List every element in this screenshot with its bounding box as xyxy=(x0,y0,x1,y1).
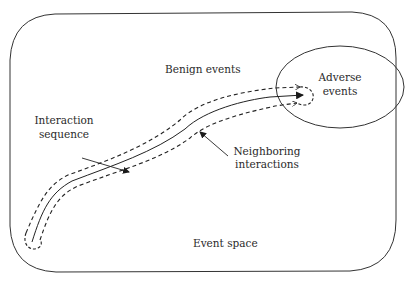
neighboring-interactions-pointer-arrow xyxy=(200,132,228,156)
benign-events-label: Benign events xyxy=(165,63,241,75)
neighboring-end-cap-start xyxy=(25,233,41,249)
event-space-label: Event space xyxy=(193,237,258,249)
adverse-events-label-line1: Adverse xyxy=(317,71,361,83)
neighboring-interactions-label-line1: Neighboring xyxy=(233,145,300,157)
neighboring-interactions-label-line2: interactions xyxy=(235,158,299,170)
interaction-sequence-label-line1: Interaction xyxy=(34,114,93,126)
neighboring-end-cap-end xyxy=(297,87,313,105)
interaction-sequence-label-line2: sequence xyxy=(39,128,89,140)
adverse-events-label-line2: events xyxy=(323,85,358,97)
event-space-diagram: Benign events Adverse events Interaction… xyxy=(0,0,408,291)
interaction-sequence-pointer-arrow xyxy=(82,158,129,172)
event-space-boundary xyxy=(10,12,396,272)
